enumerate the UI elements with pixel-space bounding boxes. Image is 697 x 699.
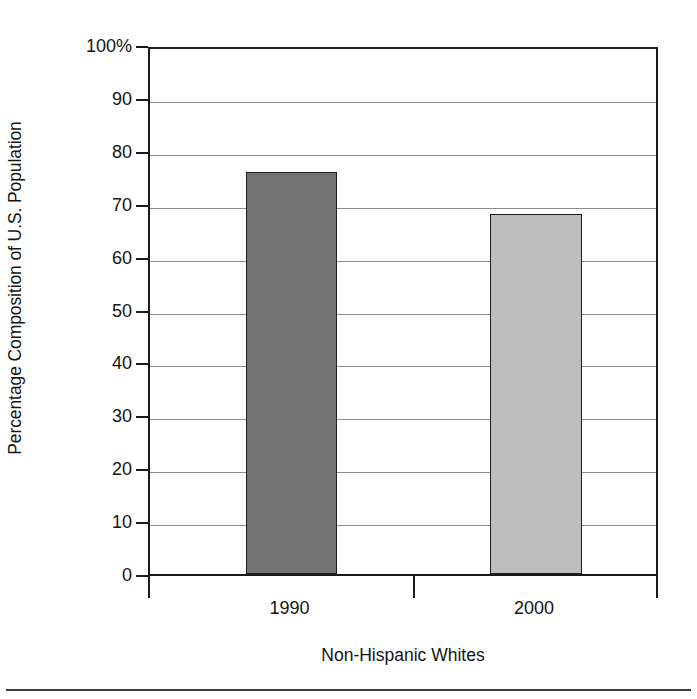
- x-tick-label-1990: 1990: [250, 598, 330, 619]
- x-axis-title: Non-Hispanic Whites: [148, 645, 658, 666]
- bar-chart-figure: Percentage Composition of U.S. Populatio…: [0, 0, 697, 699]
- y-tick-mark: [136, 152, 148, 154]
- y-tick-label-90: 90: [60, 89, 132, 110]
- y-tick-label-0: 0: [60, 565, 132, 586]
- y-tick-mark: [136, 311, 148, 313]
- y-tick-mark: [136, 46, 148, 48]
- y-tick-mark: [136, 205, 148, 207]
- y-tick-mark: [136, 258, 148, 260]
- y-tick-label-100: 100%: [60, 36, 132, 57]
- y-tick-label-70: 70: [60, 195, 132, 216]
- y-tick-label-40: 40: [60, 353, 132, 374]
- gridline-80: [150, 155, 656, 156]
- y-axis-title: Percentage Composition of U.S. Populatio…: [0, 0, 30, 576]
- y-tick-mark: [136, 99, 148, 101]
- y-tick-mark: [136, 522, 148, 524]
- bar-1990[interactable]: [246, 172, 337, 574]
- y-tick-mark: [136, 575, 148, 577]
- y-tick-label-20: 20: [60, 459, 132, 480]
- y-tick-mark: [136, 469, 148, 471]
- y-tick-label-50: 50: [60, 301, 132, 322]
- x-tick-mark-left: [148, 576, 150, 598]
- plot-inner: [150, 49, 656, 574]
- gridline-90: [150, 102, 656, 103]
- y-tick-label-10: 10: [60, 512, 132, 533]
- gridline-70: [150, 208, 656, 209]
- y-tick-mark: [136, 416, 148, 418]
- bottom-divider: [6, 689, 691, 691]
- x-tick-mark-middle: [413, 576, 415, 598]
- y-tick-label-30: 30: [60, 406, 132, 427]
- bar-2000[interactable]: [490, 214, 582, 574]
- x-tick-label-2000: 2000: [494, 598, 574, 619]
- plot-area: [148, 47, 658, 576]
- y-tick-label-60: 60: [60, 248, 132, 269]
- x-tick-mark-right: [656, 576, 658, 598]
- y-tick-mark: [136, 363, 148, 365]
- y-tick-label-80: 80: [60, 142, 132, 163]
